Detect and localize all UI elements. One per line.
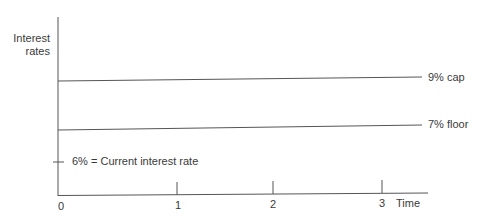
current-rate-label: 6% = Current interest rate bbox=[72, 155, 198, 168]
y-axis-label-line2: rates bbox=[4, 45, 50, 58]
x-axis-label: Time bbox=[396, 197, 420, 210]
floor-label: 7% floor bbox=[428, 118, 468, 131]
y-axis-label: Interest rates bbox=[4, 32, 50, 58]
x-tick-label-3: 3 bbox=[379, 197, 385, 210]
x-tick-label-2: 2 bbox=[270, 198, 276, 211]
x-axis bbox=[58, 193, 428, 196]
x-tick-label-0: 0 bbox=[58, 200, 64, 213]
chart-canvas bbox=[0, 0, 487, 223]
floor-line bbox=[58, 125, 422, 130]
cap-line bbox=[58, 77, 422, 81]
cap-label: 9% cap bbox=[428, 71, 465, 84]
x-tick-label-1: 1 bbox=[175, 199, 181, 212]
y-axis-label-line1: Interest bbox=[4, 32, 50, 45]
